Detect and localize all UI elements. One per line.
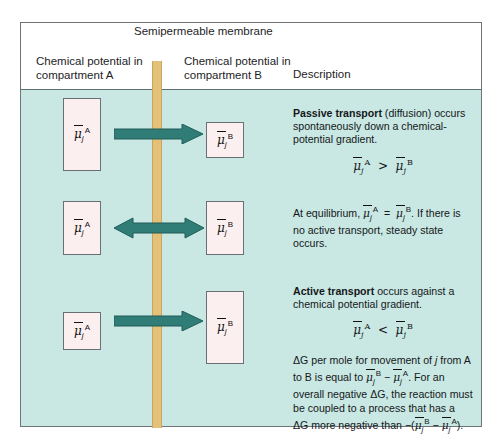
arrow-right-active <box>114 311 204 331</box>
description-passive-transport: Passive transport (diffusion) occurs spo… <box>293 107 473 177</box>
potential-box-b-equilibrium: μjB <box>206 201 244 255</box>
potential-label-a-equilibrium: μjA <box>74 220 90 237</box>
potential-box-a-active: μjA <box>63 312 101 350</box>
description-active-transport: Active transport occurs against a chemic… <box>293 285 473 342</box>
description-lead-passive: Passive transport <box>293 107 382 119</box>
equation-active: μjA < μjB <box>293 320 473 341</box>
potential-label-b-active: μjB <box>217 319 233 336</box>
footnote-part1: ΔG per mole for movement of <box>293 354 435 366</box>
arrow-bidirectional-equilibrium <box>114 217 204 239</box>
equation-passive: μjA > μjB <box>293 156 473 177</box>
potential-label-b-passive: μjB <box>217 132 233 149</box>
column-header-description: Description <box>293 68 351 80</box>
description-equilibrium: At equilibrium, μjA = μjB. If there is n… <box>293 203 473 251</box>
potential-box-a-equilibrium: μjA <box>63 201 101 255</box>
footnote-part4: . <box>460 419 463 431</box>
description-part1-equilibrium: At equilibrium, <box>293 207 363 219</box>
potential-label-a-passive: μjA <box>74 126 90 143</box>
arrow-right-passive <box>114 124 204 144</box>
transport-diagram-figure: Semipermeable membrane Chemical potentia… <box>20 22 482 427</box>
potential-label-a-active: μjA <box>74 323 90 340</box>
description-free-energy-footnote: ΔG per mole for movement of j from A to … <box>293 354 473 436</box>
potential-label-b-equilibrium: μjB <box>217 220 233 237</box>
membrane-title-label: Semipermeable membrane <box>134 25 284 39</box>
potential-box-b-passive: μjB <box>206 122 244 158</box>
potential-box-a-passive: μjA <box>63 98 101 171</box>
potential-box-b-active: μjB <box>206 291 244 364</box>
description-lead-active: Active transport <box>293 285 374 297</box>
semipermeable-membrane-bar <box>152 61 162 428</box>
figure-header-band: Semipermeable membrane Chemical potentia… <box>21 23 481 89</box>
